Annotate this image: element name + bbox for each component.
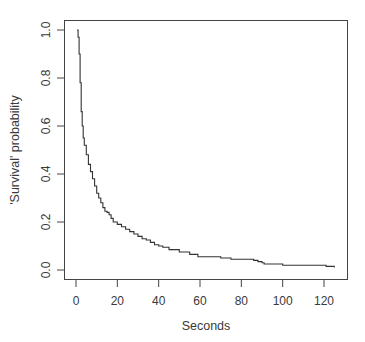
x-tick-label: 60 [193, 294, 207, 308]
x-axis-title: Seconds [182, 319, 231, 333]
x-tick-label: 80 [235, 294, 249, 308]
y-tick-label: 0.0 [39, 261, 53, 278]
survival-curve [77, 30, 334, 268]
x-tick-label: 100 [273, 294, 293, 308]
y-axis: 0.00.20.40.60.81.0 [39, 21, 65, 278]
y-axis-title: 'Survival' probability [8, 94, 22, 204]
x-tick-label: 120 [314, 294, 334, 308]
x-tick-label: 20 [111, 294, 125, 308]
y-tick-label: 0.2 [39, 213, 53, 230]
y-tick-label: 0.6 [39, 117, 53, 134]
x-tick-label: 40 [152, 294, 166, 308]
survival-chart: 0.00.20.40.60.81.0 020406080100120 Secon… [0, 0, 365, 342]
plot-frame [65, 21, 348, 280]
x-tick-label: 0 [73, 294, 80, 308]
y-tick-label: 1.0 [39, 21, 53, 38]
y-tick-label: 0.4 [39, 165, 53, 182]
y-tick-label: 0.8 [39, 69, 53, 86]
x-axis: 020406080100120 [73, 280, 335, 309]
